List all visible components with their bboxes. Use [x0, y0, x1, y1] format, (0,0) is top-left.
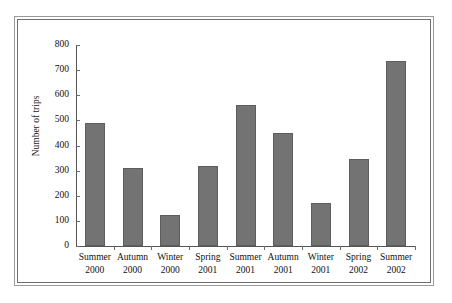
x-axis-label: Winter2001 — [302, 251, 340, 276]
bar — [160, 215, 180, 246]
x-axis-label: Winter2000 — [151, 251, 189, 276]
bar — [273, 133, 293, 246]
x-axis-tick — [377, 246, 378, 250]
figure-frame: Number of trips 800700600500400300200100… — [14, 16, 434, 286]
x-axis-tick — [302, 246, 303, 250]
x-axis-label: Summer2000 — [76, 251, 114, 276]
x-axis-label: Autumn2001 — [264, 251, 302, 276]
y-axis-tick — [76, 221, 80, 222]
x-axis-label-year: 2000 — [76, 264, 114, 277]
x-axis-label: Summer2001 — [227, 251, 265, 276]
x-axis-label: Summer2002 — [377, 251, 415, 276]
x-axis-tick — [151, 246, 152, 250]
bar — [349, 159, 369, 246]
x-axis-label-year: 2002 — [340, 264, 378, 277]
x-axis-label-year: 2001 — [264, 264, 302, 277]
y-axis-tick-label: 300 — [31, 165, 69, 175]
x-axis-tick — [340, 246, 341, 250]
bar — [236, 105, 256, 246]
bar-chart: Number of trips 800700600500400300200100… — [15, 17, 435, 287]
x-axis-label-year: 2002 — [377, 264, 415, 277]
y-axis-tick-label: 700 — [31, 64, 69, 74]
y-axis-tick — [76, 196, 80, 197]
x-axis-label-year: 2000 — [151, 264, 189, 277]
x-axis-label: Autumn2000 — [114, 251, 152, 276]
y-axis-tick — [76, 171, 80, 172]
x-axis-label-year: 2000 — [114, 264, 152, 277]
y-axis-tick — [76, 246, 80, 247]
x-axis-tick — [189, 246, 190, 250]
x-axis-label-year: 2001 — [189, 264, 227, 277]
x-axis-label-season: Autumn — [114, 251, 152, 264]
y-axis-tick-label: 200 — [31, 190, 69, 200]
x-axis-label-season: Spring — [340, 251, 378, 264]
bar — [85, 123, 105, 246]
y-axis-tick — [76, 45, 80, 46]
y-axis-tick-label: 500 — [31, 114, 69, 124]
x-axis-label-season: Summer — [227, 251, 265, 264]
y-axis-tick — [76, 120, 80, 121]
x-axis-tick — [264, 246, 265, 250]
y-axis-tick-label: 400 — [31, 140, 69, 150]
y-axis-tick-label: 600 — [31, 89, 69, 99]
y-axis-tick-label: 0 — [31, 240, 69, 250]
x-axis-label: Spring2001 — [189, 251, 227, 276]
x-axis-label-season: Winter — [151, 251, 189, 264]
bar — [123, 168, 143, 246]
y-axis-tick — [76, 146, 80, 147]
y-axis-tick-label: 800 — [31, 39, 69, 49]
x-axis-label-year: 2001 — [227, 264, 265, 277]
x-axis-tick — [227, 246, 228, 250]
x-axis-label-season: Summer — [76, 251, 114, 264]
x-axis-tick — [114, 246, 115, 250]
y-axis-tick — [76, 70, 80, 71]
x-axis-line — [76, 246, 415, 247]
x-axis-label-season: Winter — [302, 251, 340, 264]
bar — [198, 166, 218, 246]
x-axis-tick — [415, 246, 416, 250]
x-axis-label-season: Spring — [189, 251, 227, 264]
bar — [386, 61, 406, 246]
y-axis-tick — [76, 95, 80, 96]
y-axis-tick-label: 100 — [31, 215, 69, 225]
x-axis-label-season: Summer — [377, 251, 415, 264]
x-axis-label-year: 2001 — [302, 264, 340, 277]
x-axis-label: Spring2002 — [340, 251, 378, 276]
x-axis-label-season: Autumn — [264, 251, 302, 264]
bar — [311, 203, 331, 246]
